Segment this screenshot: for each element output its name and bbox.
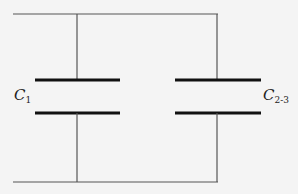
c23-label-subscript: 2-3 xyxy=(274,95,289,105)
c1-label: C1 xyxy=(14,88,31,105)
c23-label-main: C xyxy=(263,86,274,104)
c1-label-subscript: 1 xyxy=(25,95,31,105)
c1-label-main: C xyxy=(14,86,25,104)
circuit-diagram xyxy=(0,0,298,194)
c23-label: C2-3 xyxy=(263,88,289,105)
